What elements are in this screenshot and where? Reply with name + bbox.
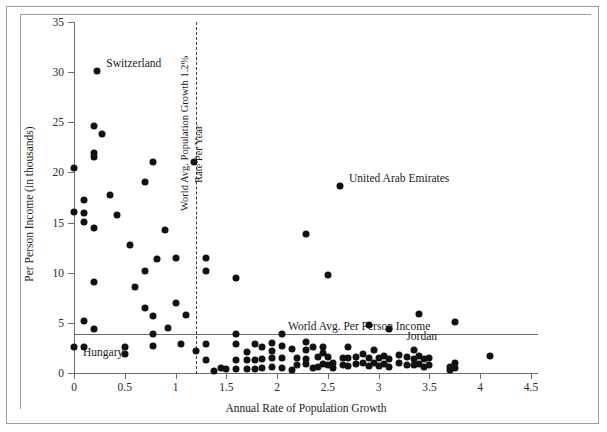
x-tick-label: 3 xyxy=(376,381,382,393)
data-point xyxy=(81,196,88,203)
point-annotation-label: Jordan xyxy=(406,330,437,342)
y-tick-label: 20 xyxy=(40,166,64,178)
data-point xyxy=(324,271,331,278)
data-point xyxy=(385,363,392,370)
data-point xyxy=(345,343,352,350)
data-point xyxy=(223,365,230,372)
data-point xyxy=(192,347,199,354)
data-point xyxy=(426,361,433,368)
x-axis-title: Annual Rate of Population Growth xyxy=(74,402,538,414)
x-tick-label: 1.5 xyxy=(219,381,233,393)
y-tick xyxy=(68,72,74,73)
data-point xyxy=(353,353,360,360)
data-point xyxy=(337,183,344,190)
data-point xyxy=(251,356,258,363)
data-point xyxy=(233,365,240,372)
data-point xyxy=(203,267,210,274)
data-point xyxy=(211,367,218,374)
data-point xyxy=(258,364,265,371)
point-annotation-label: Switzerland xyxy=(106,57,161,69)
y-tick-label: 30 xyxy=(40,66,64,78)
data-point xyxy=(279,364,286,371)
data-point xyxy=(150,312,157,319)
data-point xyxy=(154,255,161,262)
data-point xyxy=(203,340,210,347)
data-point xyxy=(150,330,157,337)
y-tick-label: 25 xyxy=(40,116,64,128)
data-point xyxy=(172,254,179,261)
data-point xyxy=(165,324,172,331)
y-tick-label: 15 xyxy=(40,217,64,229)
x-tick xyxy=(480,373,481,379)
growth-reference-label-line2: Rate Per Year xyxy=(193,126,204,183)
data-point xyxy=(113,211,120,218)
y-tick xyxy=(68,273,74,274)
data-point xyxy=(162,226,169,233)
data-point xyxy=(142,304,149,311)
x-tick xyxy=(429,373,430,379)
data-point xyxy=(294,361,301,368)
x-tick xyxy=(74,373,75,379)
data-point xyxy=(99,131,106,138)
x-tick xyxy=(379,373,380,379)
y-tick-label: 5 xyxy=(40,317,64,329)
data-point xyxy=(258,343,265,350)
data-point xyxy=(150,159,157,166)
data-point xyxy=(126,241,133,248)
data-point xyxy=(279,342,286,349)
data-point xyxy=(233,356,240,363)
data-point xyxy=(487,352,494,359)
world-avg-growth-reference-line xyxy=(196,22,197,374)
data-point xyxy=(269,363,276,370)
x-tick xyxy=(226,373,227,379)
data-point xyxy=(269,354,276,361)
data-point xyxy=(71,343,78,350)
data-point xyxy=(416,310,423,317)
data-point xyxy=(289,345,296,352)
data-point xyxy=(142,179,149,186)
data-point xyxy=(404,353,411,360)
data-point xyxy=(345,354,352,361)
x-tick xyxy=(531,373,532,379)
x-tick-label: 0 xyxy=(71,381,77,393)
data-point xyxy=(279,354,286,361)
y-tick xyxy=(68,172,74,173)
world-avg-income-reference-line xyxy=(74,334,538,335)
data-point xyxy=(91,154,98,161)
y-axis-title: Per Person Income (in thousands) xyxy=(23,89,35,319)
data-point xyxy=(426,354,433,361)
data-point xyxy=(233,274,240,281)
x-tick-label: 4 xyxy=(477,381,483,393)
data-point xyxy=(251,365,258,372)
x-tick-label: 4.5 xyxy=(524,381,538,393)
data-point xyxy=(243,356,250,363)
y-tick-label: 10 xyxy=(40,267,64,279)
data-point xyxy=(302,230,309,237)
scatter-chart-figure: 00.511.522.533.544.5 05101520253035 Worl… xyxy=(0,0,607,432)
data-point xyxy=(91,224,98,231)
data-point xyxy=(91,123,98,130)
data-point xyxy=(302,338,309,345)
data-point xyxy=(172,299,179,306)
data-point xyxy=(370,346,377,353)
growth-reference-label-line1: World Avg. Population Growth 1.2% xyxy=(179,56,190,211)
data-point xyxy=(81,317,88,324)
y-tick xyxy=(68,22,74,23)
x-tick xyxy=(176,373,177,379)
data-point xyxy=(395,359,402,366)
data-point xyxy=(94,68,101,75)
data-point xyxy=(203,254,210,261)
data-point xyxy=(91,325,98,332)
data-point xyxy=(302,346,309,353)
data-point xyxy=(269,347,276,354)
data-point xyxy=(451,318,458,325)
y-tick xyxy=(68,323,74,324)
data-point xyxy=(294,354,301,361)
data-point xyxy=(302,360,309,367)
data-point xyxy=(243,365,250,372)
x-axis-line xyxy=(74,373,538,374)
y-tick xyxy=(68,122,74,123)
data-point xyxy=(269,339,276,346)
data-point xyxy=(251,340,258,347)
data-point xyxy=(106,192,113,199)
